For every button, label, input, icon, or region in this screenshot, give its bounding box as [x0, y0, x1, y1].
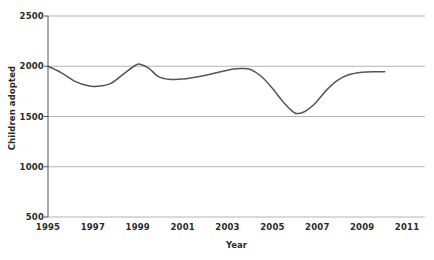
line-chart: Children adopted 2500200015001000500 199…: [0, 0, 434, 260]
axis-tick-marks: [44, 16, 48, 217]
gridlines: [48, 16, 425, 217]
plot-area: [0, 0, 434, 260]
x-axis-title: Year: [48, 240, 425, 250]
data-series-line: [48, 64, 385, 114]
